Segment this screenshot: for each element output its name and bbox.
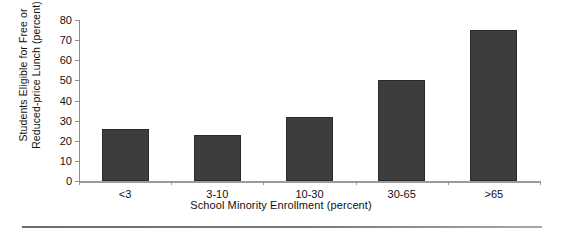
x-tick-mark [263,181,264,185]
bar [286,117,333,181]
y-tick-label: 20 [60,135,72,146]
bar [378,80,425,181]
y-tick-label: 50 [60,75,72,86]
figure-bar-chart: Students Eligible for Free or Reduced-pr… [0,0,562,235]
y-tick-label: 40 [60,95,72,106]
x-tick-mark [448,181,449,185]
y-tick-label: 0 [66,176,72,187]
bar [194,135,241,181]
x-tick-mark [540,181,541,185]
y-tick-label: 60 [60,55,72,66]
y-tick-label: 30 [60,115,72,126]
x-axis-title: School Minority Enrollment (percent) [0,199,562,212]
x-axis-line [79,181,540,183]
y-tick-label: 70 [60,35,72,46]
y-tick-mark [75,40,79,41]
y-tick-label: 80 [60,15,72,26]
y-tick-mark [75,161,79,162]
y-tick-mark [75,20,79,21]
y-tick-mark [75,141,79,142]
bar [102,129,149,181]
y-axis-title-line-1: Students Eligible for Free or [17,0,30,165]
y-tick-mark [75,121,79,122]
x-tick-mark [356,181,357,185]
x-tick-mark [79,181,80,185]
x-tick-mark [171,181,172,185]
plot-area: 01020304050607080 <33-1010-3030-65>65 [79,20,540,181]
bar [470,30,517,181]
y-axis-title: Students Eligible for Free or Reduced-pr… [17,0,51,165]
y-axis-line [79,20,80,182]
y-tick-label: 10 [60,155,72,166]
y-tick-mark [75,60,79,61]
y-tick-mark [75,101,79,102]
y-tick-mark [75,80,79,81]
footer-divider [22,226,542,228]
y-axis-title-line-2: Reduced-price Lunch (percent) [30,0,43,165]
